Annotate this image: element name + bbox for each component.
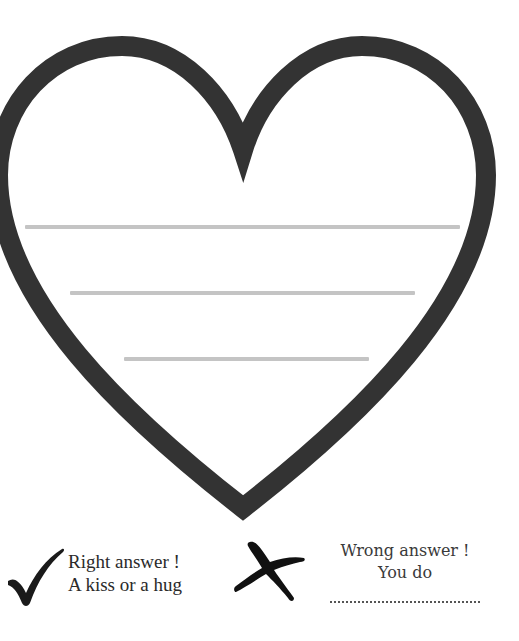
wrong-answer-blank[interactable] — [330, 601, 480, 603]
right-answer-text: Right answer ! A kiss or a hug — [68, 550, 182, 596]
right-answer-line1: Right answer ! — [68, 550, 182, 573]
answer-line-1[interactable] — [25, 225, 460, 229]
cross-icon — [234, 536, 306, 602]
checkmark-icon — [4, 547, 66, 607]
wrong-answer-text: Wrong answer ! You do — [320, 540, 490, 584]
answer-line-3[interactable] — [124, 357, 369, 361]
wrong-answer-line1: Wrong answer ! — [320, 540, 490, 562]
wrong-answer-line2: You do — [320, 562, 490, 584]
answer-line-2[interactable] — [70, 291, 415, 295]
right-answer-line2: A kiss or a hug — [68, 573, 182, 596]
